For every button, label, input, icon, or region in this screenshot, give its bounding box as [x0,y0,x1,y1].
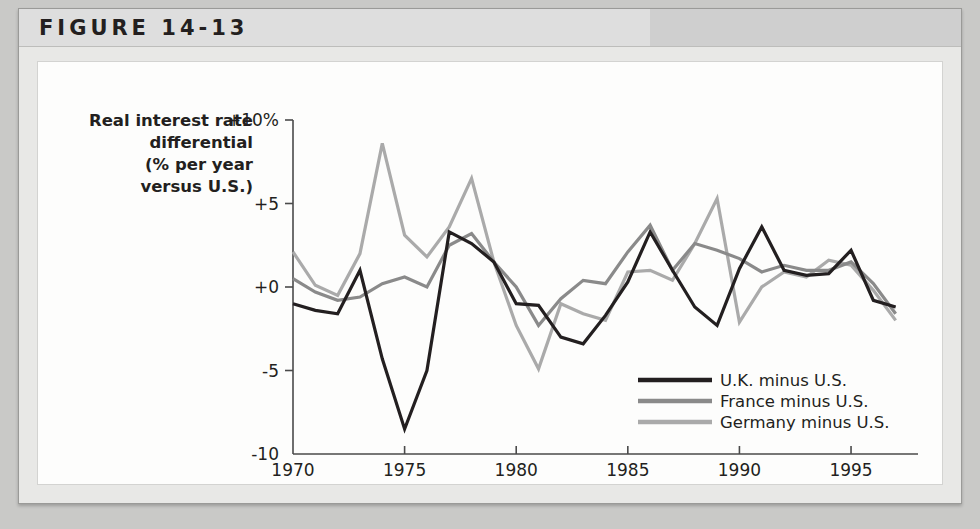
x-axis-ticks: 197019751980198519901995 [271,446,872,480]
y-tick-+10%: +10% [227,110,293,130]
x-tick-label: 1995 [829,460,872,480]
figure-header-band: FIGURE 14-13 [19,9,961,47]
y-axis-title-line: differential [150,133,253,152]
x-tick-1975: 1975 [383,446,426,480]
figure-number-label: FIGURE 14-13 [39,16,248,40]
x-tick-label: 1980 [495,460,538,480]
line-chart: Real interest ratedifferential(% per yea… [38,62,942,484]
x-tick-label: 1985 [606,460,649,480]
y-axis-title-line: (% per year [145,155,254,174]
y-tick-+5: +5 [254,194,293,214]
y-tick-+0: +0 [254,277,293,297]
x-tick-1985: 1985 [606,446,649,480]
x-tick-label: 1990 [718,460,761,480]
series-line-germany [293,143,896,368]
legend-item: Germany minus U.S. [638,413,890,432]
x-tick-label: 1975 [383,460,426,480]
chart-legend: U.K. minus U.S.France minus U.S.Germany … [638,371,890,432]
legend-label: Germany minus U.S. [720,413,890,432]
legend-item: U.K. minus U.S. [638,371,847,390]
legend-label: France minus U.S. [720,392,869,411]
chart-panel: Real interest ratedifferential(% per yea… [37,61,943,485]
y-tick-label: +0 [254,277,279,297]
legend-label: U.K. minus U.S. [720,371,847,390]
y-tick-label: +5 [254,194,279,214]
legend-item: France minus U.S. [638,392,869,411]
y-tick--5: -5 [262,361,293,381]
x-tick-1990: 1990 [718,446,761,480]
x-tick-1970: 1970 [271,460,314,480]
x-tick-1980: 1980 [495,446,538,480]
y-axis-title-line: versus U.S.) [140,177,253,196]
x-tick-label: 1970 [271,460,314,480]
y-tick-label: -5 [262,361,279,381]
figure-card: FIGURE 14-13 Real interest ratedifferent… [18,8,962,504]
x-tick-1995: 1995 [829,446,872,480]
y-tick-label: +10% [227,110,279,130]
